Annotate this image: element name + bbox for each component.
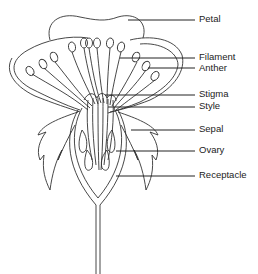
label-style: Style [199, 101, 220, 111]
petal-back [49, 16, 144, 40]
label-stigma: Stigma [199, 89, 229, 99]
stamens [24, 37, 160, 110]
label-anther: Anther [199, 63, 227, 73]
label-sepal: Sepal [199, 124, 223, 134]
label-filament: Filament [199, 52, 235, 62]
flower-illustration [0, 0, 258, 274]
flower-diagram: Petal Filament Anther Stigma Style Sepal… [0, 0, 258, 274]
label-petal: Petal [199, 14, 221, 24]
label-receptacle: Receptacle [199, 170, 247, 180]
petal-right [110, 38, 183, 112]
label-ovary: Ovary [199, 145, 224, 155]
